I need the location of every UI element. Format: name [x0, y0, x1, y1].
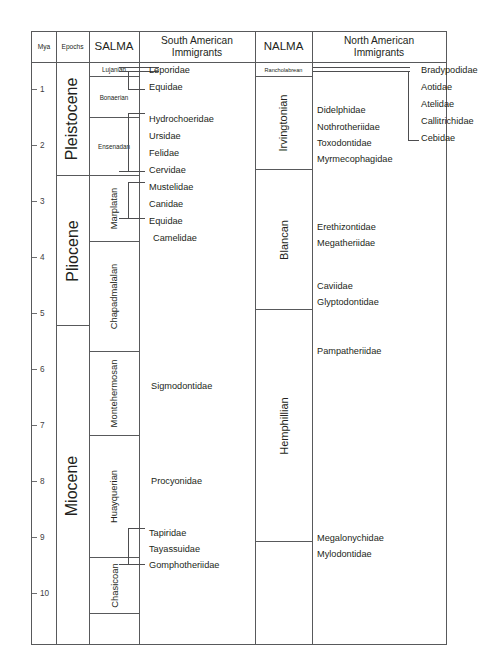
- salma-montehermosan: Montehermosan: [89, 352, 139, 436]
- tick-label-8: 8: [40, 477, 45, 486]
- sa-bracket-1-bottom: [128, 89, 145, 90]
- tick-label-2: 2: [40, 141, 45, 150]
- tick-1: [32, 89, 37, 90]
- sa-taxon-procyonidae: Procyonidae: [151, 477, 202, 486]
- salma-chapadmalalan: Chapadmalalan: [89, 242, 139, 352]
- salma-chasicoan: Chasicoan: [89, 558, 139, 614]
- tick-4: [32, 257, 37, 258]
- na-taxon-caviidae: Caviidae: [317, 282, 353, 291]
- sa-bracket-4-bottom: [119, 564, 145, 565]
- sa-taxon-sigmodontidae: Sigmodontidae: [151, 382, 212, 391]
- sa-taxon-canidae: Canidae: [149, 200, 183, 209]
- na-bracket-1-top2: [313, 71, 410, 72]
- tick-7: [32, 425, 37, 426]
- salma-bonaerian: Bonaerian: [89, 77, 139, 118]
- sa-bracket-2-top: [128, 113, 145, 114]
- salma-marplatan: Marplatan: [89, 176, 139, 242]
- header-na-line2: Immigrants: [354, 47, 404, 59]
- nalma-hemphillian-label: Hemphillian: [278, 397, 290, 454]
- na-taxon-bradypodidae: Bradypodidae: [421, 66, 478, 75]
- header-nalma: NALMA: [255, 32, 312, 62]
- tick-6: [32, 369, 37, 370]
- table-header: Mya Epochs SALMA South American Immigran…: [32, 32, 446, 63]
- header-epochs: Epochs: [56, 32, 89, 62]
- nalma-irvingtonian-label: Irvingtonian: [278, 95, 290, 152]
- tick-3: [32, 201, 37, 202]
- header-salma: SALMA: [89, 32, 139, 62]
- header-na-immigrants: North American Immigrants: [312, 32, 446, 62]
- range-chart: Mya Epochs SALMA South American Immigran…: [31, 31, 447, 645]
- tick-label-1: 1: [40, 85, 45, 94]
- na-bracket-1-top: [313, 67, 410, 68]
- header-na-line1: North American: [344, 35, 414, 47]
- salma-ensenadan: Ensenadan: [89, 118, 139, 176]
- salma-bonaerian-label: Bonaerian: [100, 94, 129, 101]
- epoch-pliocene-label: Pliocene: [64, 220, 82, 281]
- sa-taxon-felidae: Felidae: [149, 149, 179, 158]
- sa-taxon-equidae-1: Equidae: [149, 83, 183, 92]
- nalma-rancholabrean: Rancholabrean: [255, 63, 312, 77]
- na-taxon-callitrichidae: Callitrichidae: [421, 117, 474, 126]
- salma-marplatan-label: Marplatan: [108, 188, 119, 230]
- salma-huayquerian: Huayquerian: [89, 436, 139, 558]
- sa-taxon-camelidae: Camelidae: [153, 234, 197, 243]
- tick-8: [32, 481, 37, 482]
- sa-bracket-4-stem: [128, 528, 129, 564]
- na-bracket-1-stem: [408, 71, 409, 140]
- epoch-pliocene: Pliocene: [56, 176, 89, 326]
- epoch-miocene-label: Miocene: [64, 455, 82, 515]
- sa-taxon-hydrochoeridae: Hydrochoeridae: [149, 115, 214, 124]
- nalma-blancan: Blancan: [255, 170, 312, 310]
- epoch-pleistocene-label: Pleistocene: [64, 78, 82, 161]
- colsep-nalma: [312, 32, 313, 644]
- tick-label-7: 7: [40, 421, 45, 430]
- epoch-miocene: Miocene: [56, 326, 89, 645]
- tick-label-6: 6: [40, 365, 45, 374]
- salma-montehermosan-label: Montehermosan: [109, 360, 120, 428]
- sa-taxon-leporidae: Leporidae: [149, 66, 190, 75]
- na-taxon-cebidae: Cebidae: [421, 134, 455, 143]
- header-sa-immigrants: South American Immigrants: [139, 32, 255, 62]
- sa-taxon-ursidae: Ursidae: [149, 132, 181, 141]
- sa-bracket-2-bottom: [119, 171, 145, 172]
- tick-label-10: 10: [40, 589, 49, 598]
- tick-label-5: 5: [40, 309, 45, 318]
- salma-ensenadan-label: Ensenadan: [98, 143, 130, 150]
- na-taxon-glyptodontidae: Glyptodontidae: [317, 298, 379, 307]
- sa-bracket-3-top: [128, 182, 145, 183]
- tick-5: [32, 313, 37, 314]
- nalma-rancholabrean-label: Rancholabrean: [265, 67, 303, 73]
- tick-label-9: 9: [40, 533, 45, 542]
- header-sa-line1: South American: [161, 35, 233, 47]
- header-mya: Mya: [32, 32, 56, 62]
- sa-taxon-equidae-2: Equidae: [149, 217, 183, 226]
- sa-taxon-cervidae: Cervidae: [149, 166, 186, 175]
- tick-2: [32, 145, 37, 146]
- na-taxon-toxodontidae: Toxodontidae: [317, 139, 372, 148]
- salma-lujanian: Lujanian: [89, 63, 139, 77]
- na-taxon-atelidae: Atelidae: [421, 100, 454, 109]
- sa-bracket-2-stem: [128, 113, 129, 171]
- na-taxon-megalonychidae: Megalonychidae: [317, 534, 384, 543]
- sa-bracket-4-top: [128, 528, 145, 529]
- sa-taxon-gomphotheriidae: Gomphotheriidae: [149, 561, 219, 570]
- tick-label-3: 3: [40, 197, 45, 206]
- na-taxon-mylodontidae: Mylodontidae: [317, 550, 372, 559]
- salma-huayquerian-label: Huayquerian: [109, 470, 120, 523]
- salma-chasicoan-label: Chasicoan: [109, 563, 120, 607]
- na-taxon-aotidae: Aotidae: [421, 83, 452, 92]
- sa-taxon-tayassuidae: Tayassuidae: [149, 545, 200, 554]
- header-sa-line2: Immigrants: [172, 47, 222, 59]
- na-taxon-nothrotheriidae: Nothrotheriidae: [317, 123, 380, 132]
- nalma-irvingtonian: Irvingtonian: [255, 77, 312, 170]
- sa-taxon-mustelidae: Mustelidae: [149, 183, 193, 192]
- na-taxon-megatheriidae: Megatheriidae: [317, 239, 375, 248]
- na-bracket-1-bottom: [408, 140, 419, 141]
- sa-taxon-tapiridae: Tapiridae: [149, 529, 186, 538]
- epoch-pleistocene: Pleistocene: [56, 63, 89, 176]
- colsep-salma: [139, 32, 140, 644]
- na-taxon-erethizontidae: Erethizontidae: [317, 223, 376, 232]
- sa-bracket-1-stem: [128, 71, 129, 89]
- tick-9: [32, 537, 37, 538]
- nalma-blancan-label: Blancan: [277, 220, 289, 260]
